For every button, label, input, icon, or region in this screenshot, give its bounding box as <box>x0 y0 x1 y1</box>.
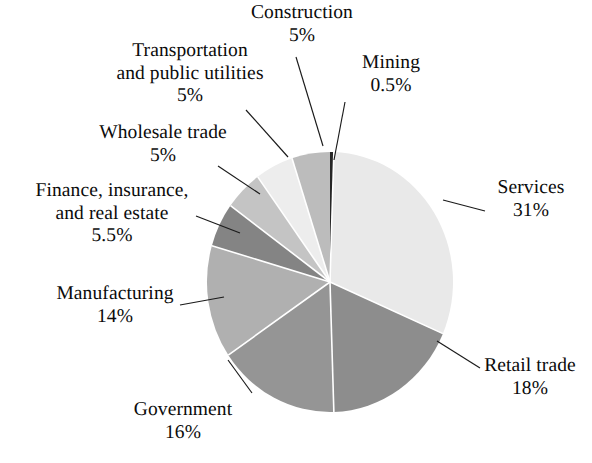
leader-line-mining <box>334 102 345 160</box>
pie-label-finance-value: 5.5% <box>6 225 218 248</box>
pie-label-construction-name: Construction <box>222 2 382 25</box>
leader-line-wholesale <box>218 166 260 194</box>
pie-label-finance-name-line1: Finance, insurance, <box>6 180 218 203</box>
pie-label-manufacturing: Manufacturing 14% <box>22 283 208 328</box>
pie-label-manufacturing-name: Manufacturing <box>22 283 208 306</box>
pie-label-transportation-name-line2: and public utilities <box>84 63 296 86</box>
pie-label-services: Services 31% <box>478 177 584 222</box>
pie-label-government-name: Government <box>100 399 266 422</box>
pie-label-government: Government 16% <box>100 399 266 444</box>
pie-label-services-value: 31% <box>478 200 584 223</box>
pie-label-retail-value: 18% <box>470 378 590 401</box>
pie-label-wholesale-trade: Wholesale trade 5% <box>68 122 258 167</box>
pie-label-retail-trade: Retail trade 18% <box>470 355 590 400</box>
pie-chart-figure: Construction 5% Mining 0.5% Transportati… <box>0 0 592 463</box>
pie-label-government-value: 16% <box>100 422 266 445</box>
pie-label-retail-name: Retail trade <box>470 355 590 378</box>
pie-label-mining-value: 0.5% <box>336 75 446 98</box>
pie-label-wholesale-name: Wholesale trade <box>68 122 258 145</box>
pie-label-mining-name: Mining <box>336 52 446 75</box>
pie-label-transportation-public-utilities: Transportation and public utilities 5% <box>84 40 296 108</box>
pie-label-wholesale-value: 5% <box>68 145 258 168</box>
pie-label-transportation-name-line1: Transportation <box>84 40 296 63</box>
pie-label-finance-name-line2: and real estate <box>6 203 218 226</box>
leader-line-construction <box>296 57 323 146</box>
pie-label-mining: Mining 0.5% <box>336 52 446 97</box>
pie-label-services-name: Services <box>478 177 584 200</box>
pie-label-manufacturing-value: 14% <box>22 306 208 329</box>
pie-label-finance-insurance-real-estate: Finance, insurance, and real estate 5.5% <box>6 180 218 248</box>
pie-label-transportation-value: 5% <box>84 85 296 108</box>
